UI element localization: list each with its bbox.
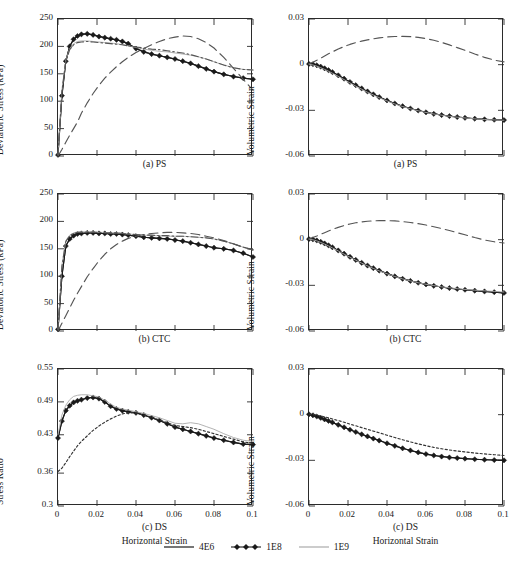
data-marker	[423, 451, 428, 456]
ytick-label: -0.06	[262, 499, 304, 509]
legend-label: 4E6	[199, 542, 214, 552]
curves-ds-volumetric	[309, 369, 504, 506]
legend-marker	[234, 544, 240, 550]
data-marker	[392, 443, 397, 448]
xtick-label: 0.08	[448, 509, 480, 519]
data-marker	[371, 436, 376, 441]
data-marker	[400, 446, 405, 451]
legend-marker	[243, 544, 249, 550]
data-marker	[431, 453, 436, 458]
ytick-label: -0.03	[262, 453, 304, 463]
xtick-label: 0	[292, 509, 324, 519]
data-marker	[384, 441, 389, 446]
legend-item-1E8: 1E8	[231, 542, 281, 552]
figure-stress-strain-panels: 050100150200250Deviatoric Stress (kPa)(a…	[0, 0, 513, 565]
data-marker	[353, 429, 358, 434]
plot-area-ds-volumetric	[308, 368, 503, 505]
data-marker	[365, 434, 370, 439]
series-4E6	[309, 414, 504, 460]
y-axis-title: Volumetric Strain	[246, 436, 256, 505]
legend-item-1E9: 1E9	[299, 542, 349, 552]
legend-key-marker-icon	[231, 542, 261, 552]
legend-label: 1E8	[266, 542, 281, 552]
legend-key-solid-icon	[164, 542, 194, 552]
data-marker	[408, 448, 413, 453]
data-marker	[359, 432, 364, 437]
data-marker	[482, 457, 487, 462]
ytick-label: 0	[262, 408, 304, 418]
data-marker	[377, 438, 382, 443]
data-marker	[347, 427, 352, 432]
data-marker	[342, 425, 347, 430]
data-marker	[492, 457, 497, 462]
series-1E8	[309, 414, 504, 460]
ytick-label: 0.03	[262, 362, 304, 372]
data-marker	[501, 458, 506, 463]
xtick-label: 0.02	[331, 509, 363, 519]
panel-ds-volumetric: -0.06-0.0300.0300.020.040.060.080.1Volum…	[0, 0, 513, 565]
xtick-label: 0.1	[487, 509, 513, 519]
data-marker	[416, 450, 421, 455]
xtick-label: 0.04	[370, 509, 402, 519]
data-marker	[439, 454, 444, 459]
figure-legend: 4E61E81E9	[0, 536, 513, 558]
data-marker	[447, 455, 452, 460]
data-marker	[455, 455, 460, 460]
legend-marker	[252, 544, 258, 550]
data-marker	[336, 422, 341, 427]
xtick-label: 0.06	[409, 509, 441, 519]
legend-label: 1E9	[334, 542, 349, 552]
data-marker	[462, 456, 467, 461]
legend-item-4E6: 4E6	[164, 542, 214, 552]
legend-key-solid-icon	[299, 542, 329, 552]
data-marker	[472, 457, 477, 462]
panel-caption: (c) DS	[356, 522, 456, 532]
